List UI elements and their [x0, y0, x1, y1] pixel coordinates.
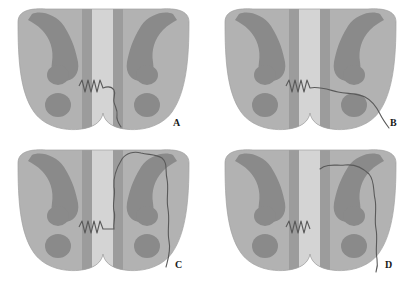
canal-band-left	[82, 141, 92, 281]
nodule-left-upper	[254, 206, 276, 226]
nodule-right-upper	[136, 65, 158, 85]
nodule-right-upper	[343, 206, 365, 226]
canal-band-right	[320, 141, 330, 281]
central-canal	[92, 141, 113, 281]
body-cross-section	[207, 141, 414, 281]
nodule-left-lower	[45, 234, 71, 258]
nodule-left-upper	[47, 65, 69, 85]
canal-band-right	[113, 0, 123, 140]
panel-b: B	[207, 0, 414, 140]
figure-container: A	[0, 0, 414, 281]
nodule-left-upper	[254, 65, 276, 85]
panel-label-b: B	[390, 118, 397, 128]
panel-a: A	[0, 0, 207, 140]
central-canal	[92, 0, 113, 140]
nodule-left-lower	[252, 234, 278, 258]
panel-c: C	[0, 141, 207, 281]
panel-label-a: A	[173, 118, 180, 128]
nodule-right-upper	[343, 65, 365, 85]
nodule-right-lower	[341, 234, 367, 258]
nodule-right-lower	[134, 234, 160, 258]
panel-label-d: D	[385, 260, 392, 270]
canal-band-left	[82, 0, 92, 140]
central-canal	[299, 0, 320, 140]
panel-d: D	[207, 141, 414, 281]
nodule-right-upper	[136, 206, 158, 226]
nodule-right-lower	[134, 93, 160, 117]
canal-band-left	[289, 0, 299, 140]
panel-label-c: C	[175, 260, 182, 270]
canal-band-right	[320, 0, 330, 140]
canal-band-left	[289, 141, 299, 281]
nodule-left-lower	[45, 93, 71, 117]
nodule-left-lower	[252, 93, 278, 117]
nodule-left-upper	[47, 206, 69, 226]
central-canal	[299, 141, 320, 281]
